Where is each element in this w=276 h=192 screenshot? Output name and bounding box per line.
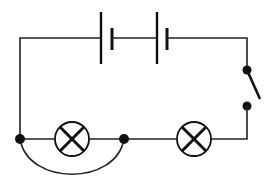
circuit-diagram <box>0 0 276 192</box>
battery-cell-2 <box>157 12 167 64</box>
battery-cell-1 <box>101 12 112 64</box>
switch-arm <box>247 70 260 99</box>
wire-top-right <box>167 38 247 70</box>
wire-top-left <box>20 38 101 139</box>
junction-node-left <box>15 134 25 144</box>
wire-right <box>211 106 247 139</box>
junction-node-middle <box>119 134 129 144</box>
switch-open <box>243 66 261 111</box>
lamp-2 <box>177 122 211 156</box>
lamp-1 <box>55 122 89 156</box>
